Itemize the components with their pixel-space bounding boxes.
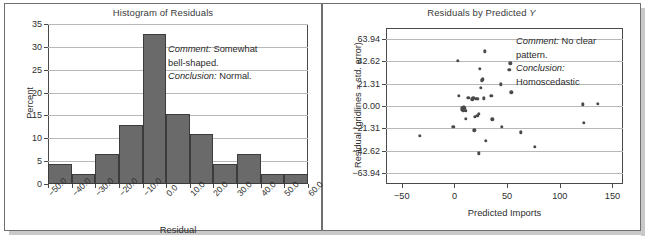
histogram-x-axis-label: Residual <box>160 224 196 235</box>
residual-diagnostics-figure: Histogram of Residuals 05101520253035 −5… <box>0 0 655 247</box>
histogram-comment-text: Somewhat <box>211 44 258 54</box>
gridline <box>48 24 308 25</box>
scatter-comment-text: No clear <box>559 36 596 46</box>
histogram-panel: Histogram of Residuals 05101520253035 −5… <box>4 3 322 231</box>
histogram-comment-text-cont: bell-shaped. <box>168 58 219 68</box>
gridline <box>386 173 623 174</box>
scatter-y-tick-mark <box>382 151 386 152</box>
histogram-y-tick-label: 35 <box>32 19 42 29</box>
scatter-x-tick-label: 0 <box>452 191 457 201</box>
histogram-y-tick-mark <box>44 93 48 94</box>
scatter-title-italic-y: Y <box>529 7 535 18</box>
histogram-annotation: Comment: Somewhat bell-shaped. Conclusio… <box>168 43 257 84</box>
histogram-bar <box>237 154 261 184</box>
scatter-panel: Residuals by Predicted Y 63.9442.6221.31… <box>322 3 641 231</box>
scatter-x-tick-label: −50 <box>394 191 410 201</box>
figure-shadow-right <box>641 8 645 236</box>
scatter-comment-text-cont: pattern. <box>516 50 548 60</box>
scatter-x-tick-mark <box>612 184 613 188</box>
scatter-y-tick-mark <box>382 39 386 40</box>
histogram-y-tick-mark <box>44 70 48 71</box>
histogram-y-axis-label: Percent <box>25 63 35 143</box>
scatter-x-tick-mark <box>402 184 403 188</box>
histogram-y-tick-label: 0 <box>37 179 42 189</box>
histogram-y-tick-mark <box>44 47 48 48</box>
scatter-y-tick-mark <box>382 61 386 62</box>
histogram-bar <box>166 114 190 184</box>
histogram-bar <box>119 125 143 184</box>
histogram-bar <box>143 34 167 184</box>
scatter-x-tick-mark <box>560 184 561 188</box>
scatter-x-tick-label: 50 <box>502 191 512 201</box>
gridline <box>386 106 623 107</box>
scatter-x-axis-label: Predicted Imports <box>468 207 541 218</box>
scatter-y-axis-label: Residual (gridlines = std. error) <box>353 25 363 185</box>
histogram-y-tick-label: 30 <box>32 42 42 52</box>
gridline <box>48 93 308 94</box>
histogram-y-tick-mark <box>44 24 48 25</box>
scatter-y-tick-mark <box>382 173 386 174</box>
scatter-y-tick-label: 0.00 <box>362 101 380 111</box>
histogram-y-tick-mark <box>44 161 48 162</box>
gridline <box>386 128 623 129</box>
histogram-conclusion-label: Conclusion: <box>168 71 217 81</box>
scatter-title: Residuals by Predicted Y <box>322 7 641 18</box>
scatter-title-main: Residuals by Predicted <box>427 7 529 18</box>
histogram-conclusion-text: Normal. <box>217 71 252 81</box>
histogram-y-tick-mark <box>44 115 48 116</box>
gridline <box>386 151 623 152</box>
scatter-comment-label: Comment: <box>516 36 559 46</box>
histogram-title: Histogram of Residuals <box>4 7 322 18</box>
histogram-comment-label: Comment: <box>168 44 211 54</box>
scatter-x-tick-mark <box>454 184 455 188</box>
scatter-x-tick-label: 100 <box>552 191 567 201</box>
histogram-y-tick-label: 5 <box>37 156 42 166</box>
scatter-y-tick-mark <box>382 128 386 129</box>
scatter-x-tick-mark <box>507 184 508 188</box>
histogram-y-tick-mark <box>44 138 48 139</box>
figure-shadow-bottom <box>9 231 645 235</box>
scatter-y-tick-mark <box>382 106 386 107</box>
scatter-conclusion-label: Conclusion: <box>516 63 565 73</box>
histogram-bar <box>190 134 214 184</box>
scatter-y-tick-mark <box>382 84 386 85</box>
scatter-annotation: Comment: No clear pattern. Conclusion: H… <box>516 35 596 89</box>
scatter-x-tick-label: 150 <box>605 191 620 201</box>
scatter-conclusion-text: Homoscedastic <box>516 77 580 87</box>
